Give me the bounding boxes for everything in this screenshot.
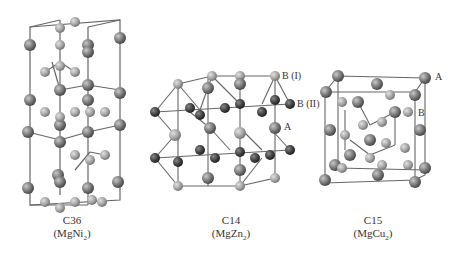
caption-c15: C15 (MgCu2) <box>343 214 403 245</box>
c15-label-a: A <box>435 71 442 82</box>
structure-name: C36 <box>42 214 102 227</box>
c14-label-b1: B (I) <box>282 70 301 81</box>
caption-c14: C14 (MgZn2) <box>201 214 261 245</box>
caption-c36: C36 (MgNi2) <box>42 214 102 245</box>
c14-label-a: A <box>284 121 291 132</box>
structure-formula: (MgZn2) <box>201 227 261 245</box>
structure-formula: (MgCu2) <box>343 227 403 245</box>
c15-label-b: B <box>418 107 425 118</box>
c14-label-b2: B (II) <box>297 98 320 109</box>
c36-atoms <box>22 17 126 213</box>
structure-name: C14 <box>201 214 261 227</box>
c14-atoms <box>150 71 295 191</box>
structure-formula: (MgNi2) <box>42 227 102 245</box>
structure-name: C15 <box>343 214 403 227</box>
